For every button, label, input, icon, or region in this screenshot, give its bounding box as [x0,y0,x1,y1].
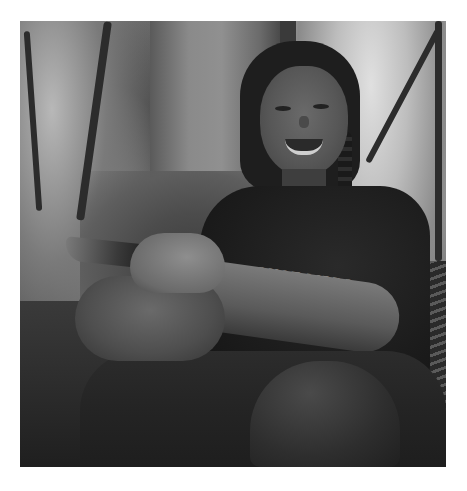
right-eye [313,104,329,109]
left-eye [275,106,291,111]
branch [435,21,442,261]
upper-hand [130,233,225,293]
photo: QUOT LIBRO [20,21,446,467]
nose [299,116,309,128]
